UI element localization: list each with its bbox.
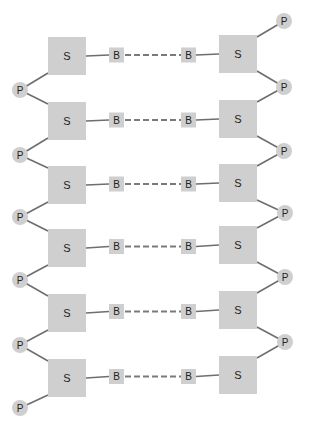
sugar-base-bond — [196, 183, 219, 184]
sugar-base-bond — [86, 120, 109, 121]
sugar-label: S — [234, 304, 241, 316]
base-label: B — [113, 50, 120, 61]
sugar-label: S — [234, 113, 241, 125]
phosphate-label: P — [17, 212, 24, 223]
sugar-base-bond — [86, 247, 109, 249]
sugar-label: S — [63, 179, 70, 191]
sugar-label: S — [63, 242, 70, 254]
sugar-label: S — [63, 50, 70, 62]
base-label: B — [185, 241, 192, 252]
phosphate-label: P — [282, 208, 289, 219]
phosphate-label: P — [281, 146, 288, 157]
phosphate-label: P — [282, 272, 289, 283]
sugar-base-bond — [86, 55, 109, 56]
sugar-label: S — [63, 372, 70, 384]
phosphate-label: P — [17, 403, 24, 414]
phosphate-label: P — [17, 275, 24, 286]
base-label: B — [185, 306, 192, 317]
sugar-label: S — [63, 115, 70, 127]
base-label: B — [185, 179, 192, 190]
sugar-label: S — [234, 369, 241, 381]
phosphate-label: P — [282, 337, 289, 348]
base-label: B — [113, 371, 120, 382]
base-label: B — [113, 306, 120, 317]
phosphate-label: P — [17, 340, 24, 351]
sugar-label: S — [234, 48, 241, 60]
base-label: B — [113, 241, 120, 252]
sugar-base-bond — [196, 119, 219, 120]
base-label: B — [185, 50, 192, 61]
phosphate-label: P — [281, 82, 288, 93]
sugar-base-bond — [86, 312, 109, 314]
sugar-base-bond — [196, 310, 219, 312]
base-label: B — [185, 371, 192, 382]
sugar-base-bond — [196, 245, 219, 247]
sugar-label: S — [234, 239, 241, 251]
phosphate-label: P — [281, 16, 288, 27]
sugar-base-bond — [86, 377, 109, 379]
base-label: B — [113, 115, 120, 126]
base-label: B — [113, 179, 120, 190]
base-label: B — [185, 115, 192, 126]
phosphate-label: P — [17, 85, 24, 96]
sugar-label: S — [63, 307, 70, 319]
sugar-base-bond — [86, 184, 109, 185]
dna-diagram: SSBBSSBBSSBBSSBBSSBBSSBBPPPPPPPPPPPP — [0, 0, 309, 444]
sugar-base-bond — [196, 54, 219, 55]
sugar-base-bond — [196, 375, 219, 377]
sugar-label: S — [234, 177, 241, 189]
phosphate-label: P — [17, 150, 24, 161]
